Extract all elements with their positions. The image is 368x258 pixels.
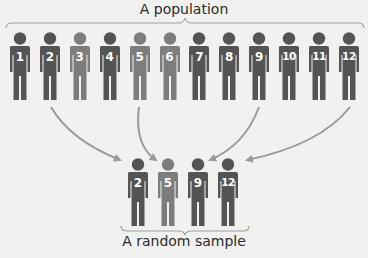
population-person-3: 3 [67, 32, 93, 102]
arrow-5 [138, 107, 156, 160]
person-icon [276, 32, 302, 102]
population-person-8: 8 [216, 32, 242, 102]
person-number: 11 [306, 50, 332, 62]
person-number: 7 [186, 50, 212, 64]
random-sampling-diagram: A population A random sample 1 2 [0, 0, 368, 258]
population-person-2: 2 [37, 32, 63, 102]
person-number: 2 [125, 176, 151, 190]
population-person-10: 10 [276, 32, 302, 102]
population-person-5: 5 [127, 32, 153, 102]
person-number: 10 [276, 50, 302, 62]
population-person-12: 12 [336, 32, 362, 102]
person-icon [155, 158, 181, 228]
arrow-12 [247, 107, 350, 160]
person-icon [215, 158, 241, 228]
person-icon [246, 32, 272, 102]
person-number: 4 [97, 50, 123, 64]
person-icon [306, 32, 332, 102]
population-person-6: 6 [157, 32, 183, 102]
population-person-11: 11 [306, 32, 332, 102]
person-number: 3 [67, 50, 93, 64]
person-icon [216, 32, 242, 102]
arrow-9 [210, 107, 259, 160]
population-person-7: 7 [186, 32, 212, 102]
sample-person-9: 9 [185, 158, 211, 228]
person-number: 5 [127, 50, 153, 64]
person-icon [125, 158, 151, 228]
sample-person-12: 12 [215, 158, 241, 228]
person-number: 5 [155, 176, 181, 190]
person-icon [7, 32, 33, 102]
person-number: 6 [157, 50, 183, 64]
person-icon [97, 32, 123, 102]
person-number: 9 [246, 50, 272, 64]
population-person-1: 1 [7, 32, 33, 102]
person-icon [67, 32, 93, 102]
person-icon [127, 32, 153, 102]
person-number: 1 [7, 50, 33, 64]
arrow-2 [51, 107, 120, 160]
person-icon [157, 32, 183, 102]
sample-person-2: 2 [125, 158, 151, 228]
person-icon [185, 158, 211, 228]
person-number: 12 [336, 50, 362, 62]
sample-person-5: 5 [155, 158, 181, 228]
person-icon [186, 32, 212, 102]
population-person-4: 4 [97, 32, 123, 102]
person-number: 2 [37, 50, 63, 64]
person-number: 9 [185, 176, 211, 190]
population-brace [6, 18, 364, 28]
person-icon [336, 32, 362, 102]
person-number: 8 [216, 50, 242, 64]
sample-label: A random sample [0, 233, 368, 249]
person-icon [37, 32, 63, 102]
person-number: 12 [215, 176, 241, 188]
population-person-9: 9 [246, 32, 272, 102]
